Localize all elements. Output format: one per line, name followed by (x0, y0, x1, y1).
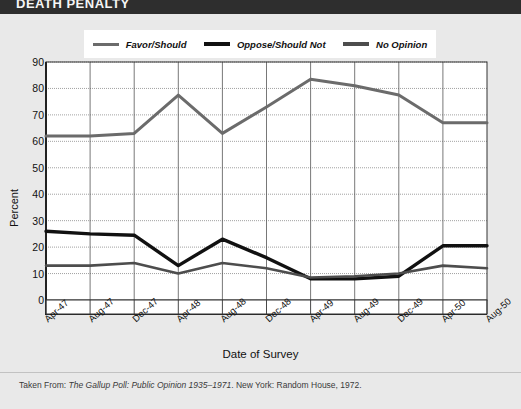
y-tick-label: 40 (18, 188, 44, 200)
legend-label-favor: Favor/Should (126, 39, 187, 50)
source-caption: Taken From: The Gallup Poll: Public Opin… (19, 380, 362, 390)
banner-title: DEATH PENALTY (16, 0, 130, 11)
footer-divider (0, 372, 521, 373)
y-tick-label: 80 (18, 82, 44, 94)
legend-item-oppose[interactable]: Oppose/Should Not (204, 39, 326, 50)
y-tick-label: 60 (18, 135, 44, 147)
chart-legend: Favor/Should Oppose/Should Not No Opinio… (84, 30, 436, 58)
legend-item-favor[interactable]: Favor/Should (93, 39, 187, 50)
y-tick-label: 50 (18, 162, 44, 174)
source-prefix: Taken From: (19, 380, 69, 390)
legend-line-icon-favor (93, 43, 119, 46)
y-tick-label: 30 (18, 215, 44, 227)
y-tick-label: 10 (18, 268, 44, 280)
legend-item-no-opinion[interactable]: No Opinion (343, 39, 427, 50)
y-tick-label: 90 (18, 56, 44, 68)
legend-line-icon-oppose (204, 42, 230, 46)
y-tick-label: 0 (18, 294, 44, 306)
source-suffix: . New York: Random House, 1972. (231, 380, 361, 390)
page-banner: DEATH PENALTY (0, 0, 521, 14)
y-tick-label: 70 (18, 109, 44, 121)
page-body: Favor/Should Oppose/Should Not No Opinio… (0, 14, 521, 409)
source-title: The Gallup Poll: Public Opinion 1935–197… (69, 380, 232, 390)
y-tick-label: 20 (18, 241, 44, 253)
legend-label-no-opinion: No Opinion (376, 39, 427, 50)
plot-area: Percent 0102030405060708090 Apr-47Aug-47… (0, 58, 521, 358)
chart-page: DEATH PENALTY Favor/Should Oppose/Should… (0, 0, 521, 409)
x-axis-title: Date of Survey (0, 348, 521, 360)
legend-line-icon-no-opinion (343, 42, 369, 46)
legend-label-oppose: Oppose/Should Not (237, 39, 326, 50)
